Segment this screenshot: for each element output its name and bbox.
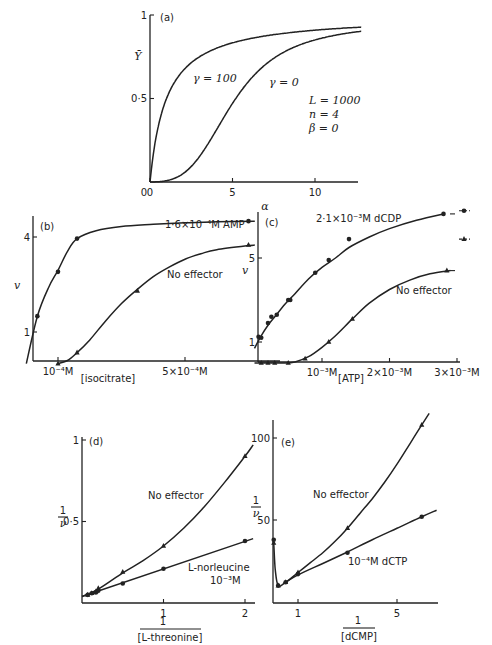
series-label: γ = 0 xyxy=(269,76,299,89)
circle-marker xyxy=(259,336,264,341)
x-tick-label: 5 xyxy=(394,608,400,619)
circle-marker xyxy=(269,315,274,320)
circle-marker xyxy=(246,219,251,224)
x-tick-label: 10⁻⁴M xyxy=(43,366,74,377)
panel-label: (a) xyxy=(160,12,174,23)
circle-marker xyxy=(326,258,331,263)
circle-marker xyxy=(288,298,293,303)
panel-d: 120·51(d)No effectorL-norleucine10⁻³M1ν1… xyxy=(58,435,255,644)
parameter-text: β = 0 xyxy=(308,122,339,135)
x-origin-label: 0 xyxy=(141,187,147,198)
circle-marker xyxy=(243,539,248,544)
x-axis-label-denominator: [L-threonine] xyxy=(138,632,203,643)
circle-marker xyxy=(266,321,271,326)
circle-marker xyxy=(276,583,281,588)
series-label: γ = 100 xyxy=(193,72,237,85)
series-curve xyxy=(82,445,253,597)
circle-marker xyxy=(35,314,40,319)
series-label: No effector xyxy=(396,285,453,296)
series-label: No effector xyxy=(148,490,205,501)
circle-marker xyxy=(75,236,80,241)
x-axis-label: [isocitrate] xyxy=(81,373,136,384)
y-axis-label: Ȳ xyxy=(134,50,143,63)
x-axis-label-numerator: 1 xyxy=(355,615,361,626)
panel-label: (b) xyxy=(40,221,54,232)
y-axis-label: v xyxy=(14,279,21,292)
circle-marker xyxy=(313,270,318,275)
circle-marker xyxy=(345,551,350,556)
series-label: 2·1×10⁻³M dCDP xyxy=(316,213,401,224)
x-tick-label: 1 xyxy=(295,608,301,619)
y-tick-label: 0·5 xyxy=(131,93,147,104)
circle-marker xyxy=(96,588,101,593)
x-axis-label-numerator: 1 xyxy=(160,616,166,627)
triangle-marker xyxy=(246,242,251,247)
circle-marker xyxy=(274,312,279,317)
series-label: 10⁻⁴M dCTP xyxy=(348,556,407,567)
circle-marker xyxy=(120,581,125,586)
y-tick-label: 4 xyxy=(24,232,30,243)
series-label: No effector xyxy=(313,489,370,500)
offscale-circle-marker xyxy=(462,208,467,213)
offscale-triangle-marker xyxy=(461,236,466,241)
circle-marker xyxy=(419,514,424,519)
y-tick-label: 100 xyxy=(251,433,270,444)
y-axis-label-numerator: 1 xyxy=(60,505,66,516)
circle-marker xyxy=(56,270,61,275)
x-tick-label: 5×10⁻⁴M xyxy=(162,366,207,377)
circle-marker xyxy=(347,237,352,242)
panel-e: 1550100(e)No effector10⁻⁴M dCTP1ν1[dCMP] xyxy=(251,413,438,642)
y-tick-label: 1 xyxy=(249,337,255,348)
x-axis-label-denominator: [dCMP] xyxy=(341,631,377,642)
circle-marker xyxy=(85,593,90,598)
x-tick-label: 2×10⁻³M xyxy=(367,367,412,378)
triangle-marker xyxy=(444,268,449,273)
panel-b: 10⁻⁴M5×10⁻⁴M14(b)1·6×10⁻⁴M AMPNo effecto… xyxy=(14,216,280,384)
x-tick-label: 10 xyxy=(309,187,322,198)
x-axis-label: α xyxy=(261,200,269,213)
y-tick-label: 5 xyxy=(249,253,255,264)
series-curve xyxy=(58,245,255,364)
parameter-text: L = 1000 xyxy=(308,94,361,107)
panel-a: 05100·510(a)Ȳαγ = 100γ = 0L = 1000n = 4β… xyxy=(131,10,361,214)
y-tick-label: 1 xyxy=(73,435,79,446)
circle-marker xyxy=(441,212,446,217)
y-tick-label: 1 xyxy=(141,10,147,21)
panel-label: (d) xyxy=(89,436,103,447)
x-tick-label: 3×10⁻³M xyxy=(434,367,479,378)
circle-marker xyxy=(89,591,94,596)
x-tick-label: 10⁻³M xyxy=(307,367,338,378)
panel-c: 10⁻³M2×10⁻³M3×10⁻³M15(c)2·1×10⁻³M dCDPNo… xyxy=(242,208,480,384)
y-axis-label-numerator: 1 xyxy=(253,495,259,506)
x-tick-label: 5 xyxy=(229,187,235,198)
circle-marker xyxy=(296,572,301,577)
circle-marker xyxy=(271,537,276,542)
y-tick-label: 1 xyxy=(24,327,30,338)
y-axis-label-denominator: ν xyxy=(253,507,260,520)
series-label: 1·6×10⁻⁴M AMP xyxy=(165,219,245,230)
series-label: L-norleucine xyxy=(188,562,250,573)
series-curve xyxy=(26,221,255,364)
series-curve xyxy=(286,510,437,582)
series-label: 10⁻³M xyxy=(210,575,241,586)
y-axis-label-denominator: ν xyxy=(60,517,67,530)
series-label: No effector xyxy=(167,269,224,280)
x-tick-label: 2 xyxy=(242,608,248,619)
circle-marker xyxy=(283,580,288,585)
x-axis-label: [ATP] xyxy=(338,373,364,384)
circle-marker xyxy=(161,566,166,571)
panel-label: (c) xyxy=(265,217,278,228)
figure: 05100·510(a)Ȳαγ = 100γ = 0L = 1000n = 4β… xyxy=(0,0,492,645)
y-axis-label: v xyxy=(242,264,249,277)
series-curve xyxy=(255,214,444,348)
panel-label: (e) xyxy=(281,437,295,448)
parameter-text: n = 4 xyxy=(309,108,339,121)
x-tick-label: 0 xyxy=(147,187,153,198)
